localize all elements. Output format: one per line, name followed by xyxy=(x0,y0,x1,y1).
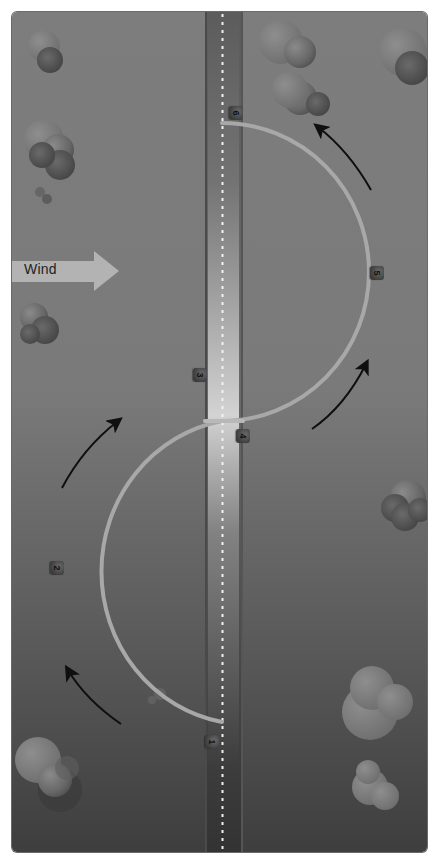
tree-icon xyxy=(259,20,330,116)
tree-icon xyxy=(379,28,429,85)
position-marker-5: 5 xyxy=(370,266,384,280)
arrow-icon xyxy=(68,670,121,724)
position-marker-4: 4 xyxy=(236,429,250,443)
tree-icon xyxy=(342,666,413,810)
upper-semicircle xyxy=(222,123,369,421)
diagram-canvas xyxy=(0,0,439,865)
position-marker-3: 3 xyxy=(193,368,207,382)
lower-semicircle xyxy=(101,421,222,722)
tree-icon xyxy=(28,30,63,73)
tree-icon xyxy=(381,480,432,531)
tree-icon xyxy=(15,737,82,812)
wind-label: Wind xyxy=(24,261,57,277)
position-marker-2: 2 xyxy=(50,561,64,575)
arrow-icon xyxy=(312,364,366,429)
arrow-icon xyxy=(318,127,371,190)
arrow-icon xyxy=(62,421,118,488)
tree-icon xyxy=(20,303,59,344)
s-turn-diagram: Wind 1 2 3 4 5 6 xyxy=(0,0,439,865)
position-marker-1: 1 xyxy=(205,735,219,749)
position-marker-6: 6 xyxy=(229,106,243,120)
tree-icon xyxy=(24,120,75,204)
